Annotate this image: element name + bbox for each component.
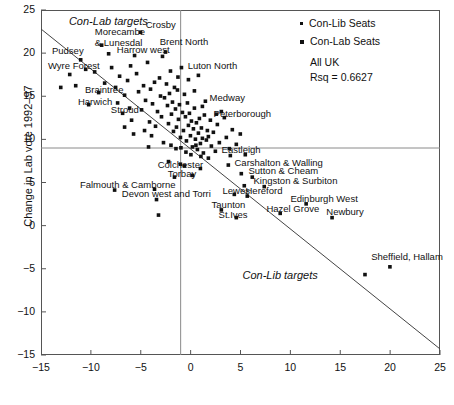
y-tick-label-4: 5 [5, 176, 35, 188]
figure: Change in Lab vote 1992–97 −15−10−505101… [0, 0, 454, 405]
legend-label-con-lab: Con-Lab Seats [310, 34, 380, 49]
legend-marker-icon-con-lib [300, 22, 303, 25]
y-tick-label-0: −15 [5, 348, 35, 360]
point-label: Wyre Forest [48, 61, 100, 72]
point-label: Crosby [146, 20, 176, 31]
x-tick-label-1: −10 [71, 361, 111, 373]
point-label: Pudsey [52, 46, 84, 57]
y-tick-label-8: 25 [5, 3, 35, 15]
region-annotation-2: Con-Lib targets [242, 269, 317, 281]
point-label: Eastleigh [222, 145, 261, 156]
x-tick-label-7: 20 [370, 361, 410, 373]
y-tick-label-5: 10 [5, 132, 35, 144]
x-tick-label-6: 15 [320, 361, 360, 373]
legend-label-con-lib: Con-Lib Seats [309, 16, 376, 31]
legend-note-rsq: Rsq = 0.6627 [310, 70, 380, 85]
legend-note-scope: All UK [310, 55, 380, 70]
point-label: Stroud [111, 105, 139, 116]
point-label: Harwich [78, 97, 112, 108]
legend-entry-con-lab: Con-Lab Seats [300, 34, 380, 49]
x-tick-label-2: −5 [121, 361, 161, 373]
legend-notes: All UK Rsq = 0.6627 [310, 55, 380, 85]
x-tick-label-4: 5 [221, 361, 261, 373]
point-label: Torbay [168, 169, 197, 180]
y-tick-label-6: 15 [5, 89, 35, 101]
point-label: Braintree [85, 85, 124, 96]
x-tick-label-8: 25 [420, 361, 454, 373]
point-label: Hazel Grove [266, 204, 319, 215]
x-tick-label-3: 0 [171, 361, 211, 373]
y-tick-label-1: −10 [5, 305, 35, 317]
legend-entry-con-lib: Con-Lib Seats [300, 16, 380, 31]
point-label: Hereford [245, 186, 282, 197]
y-tick-label-3: 0 [5, 219, 35, 231]
x-tick-label-5: 10 [270, 361, 310, 373]
point-label: Sheffield, Hallam [371, 252, 443, 263]
point-label: Medway [210, 93, 245, 104]
y-tick-label-2: −5 [5, 262, 35, 274]
point-label: Lewes [223, 186, 250, 197]
point-label: Harrow west [117, 45, 170, 56]
point-label: St.Ives [219, 210, 248, 221]
region-annotation-1: Con-Lab targets [69, 15, 148, 27]
point-label: Devon west and Torri [122, 189, 211, 200]
legend: Con-Lib Seats Con-Lab Seats All UK Rsq =… [300, 16, 380, 85]
point-label: Newbury [326, 207, 364, 218]
point-label: Luton North [188, 61, 238, 72]
y-tick-label-7: 20 [5, 46, 35, 58]
point-label: Peterborough [214, 109, 272, 120]
x-tick-label-0: −15 [21, 361, 61, 373]
legend-marker-icon-con-lab [300, 40, 304, 44]
